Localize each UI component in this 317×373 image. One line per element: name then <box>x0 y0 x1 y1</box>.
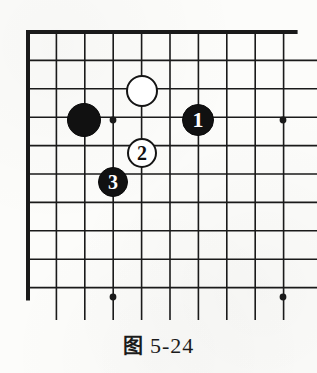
stone-white-2[interactable]: 2 <box>127 138 157 168</box>
stone-white-unnumbered[interactable] <box>126 75 158 107</box>
stone-black-unnumbered[interactable] <box>67 103 101 137</box>
figure-caption: 图 5-24 <box>0 330 317 359</box>
caption-prefix: 图 <box>123 334 144 358</box>
go-board-diagram: 123 <box>0 0 317 320</box>
stone-black-3[interactable]: 3 <box>98 167 128 197</box>
stone-black-3-label: 3 <box>108 172 118 192</box>
stone-black-1-label: 1 <box>193 109 204 131</box>
stone-white-2-label: 2 <box>137 143 147 163</box>
stone-black-1[interactable]: 1 <box>182 104 214 136</box>
caption-number: 5-24 <box>150 333 194 358</box>
stone-layer: 123 <box>0 0 317 320</box>
